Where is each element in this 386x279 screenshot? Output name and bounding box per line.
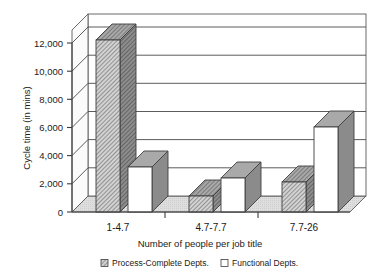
chart-canvas: 12,000 10,000 8,000 6,000 4,000 2,000 0 … xyxy=(0,0,386,279)
x-axis-title: Number of people per job title xyxy=(138,238,263,249)
legend-item-functional: Functional Depts. xyxy=(221,258,298,268)
y-tick-label-8000: 8,000 xyxy=(39,94,63,105)
legend: Process-Complete Depts. Functional Depts… xyxy=(101,258,298,268)
bar-side-face xyxy=(338,111,354,212)
hatched-swatch-icon xyxy=(101,260,108,267)
bar-functional-3 xyxy=(314,111,354,212)
y-tick-label-0: 0 xyxy=(58,207,63,218)
y-axis-title: Cycle time (in mins) xyxy=(21,86,32,169)
y-tick-label-4000: 4,000 xyxy=(39,150,63,161)
bar-front-face xyxy=(128,167,152,212)
bar-front-face xyxy=(314,127,338,212)
y-tick-label-6000: 6,000 xyxy=(39,122,63,133)
legend-item-process-complete: Process-Complete Depts. xyxy=(101,258,209,268)
bar-front-face xyxy=(96,40,120,212)
x-tick-label-2: 4.7-7.7 xyxy=(195,222,227,233)
bar-front-face xyxy=(221,178,245,212)
legend-label-process-complete: Process-Complete Depts. xyxy=(112,258,209,268)
y-axis: 12,000 10,000 8,000 6,000 4,000 2,000 0 xyxy=(34,38,72,218)
left-wall xyxy=(72,14,88,212)
bar-chart: 12,000 10,000 8,000 6,000 4,000 2,000 0 … xyxy=(0,0,386,279)
y-tick-label-12000: 12,000 xyxy=(34,38,63,49)
white-swatch-icon xyxy=(221,260,228,267)
legend-label-functional: Functional Depts. xyxy=(232,258,298,268)
y-tick-label-2000: 2,000 xyxy=(39,178,63,189)
bar-front-face xyxy=(189,196,213,212)
y-tick-label-10000: 10,000 xyxy=(34,66,63,77)
bar-front-face xyxy=(282,182,306,212)
x-tick-label-1: 1-4.7 xyxy=(107,222,130,233)
x-axis: 1-4.7 4.7-7.7 7.7-26 xyxy=(72,212,350,233)
x-tick-label-3: 7.7-26 xyxy=(290,222,319,233)
